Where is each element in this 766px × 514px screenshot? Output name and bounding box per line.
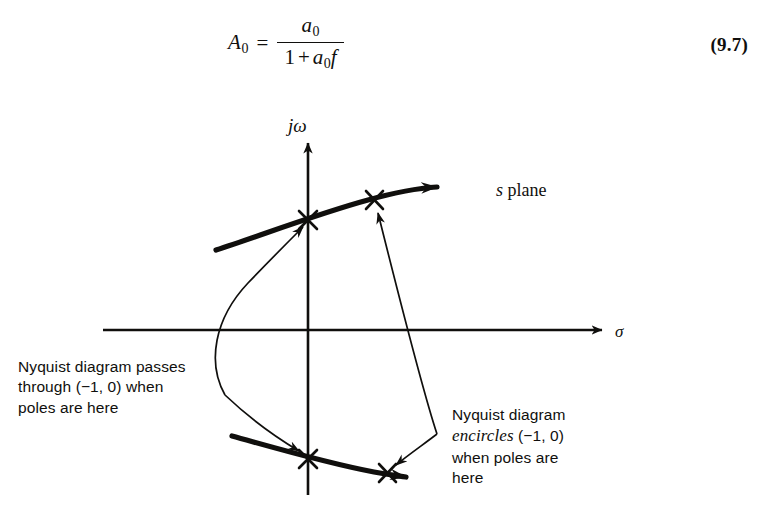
s-plane-diagram: jω σ s plane Nyquist diagram passes thro… xyxy=(0,95,766,514)
denominator-a: a xyxy=(313,45,324,69)
imaginary-axis-label: jω xyxy=(288,115,307,137)
callout-left-line-3: poles are here xyxy=(18,398,186,418)
denominator-f: f xyxy=(331,45,337,69)
equation-fraction: a0 1+a0f xyxy=(277,14,343,72)
s-plane-label: s plane xyxy=(496,180,547,201)
equation-lhs-symbol: A xyxy=(228,30,241,54)
denominator-one: 1 xyxy=(284,45,295,69)
equation-equals-sign: = xyxy=(257,31,269,56)
callout-right-line-3: when poles are xyxy=(452,448,566,468)
numerator-subscript: 0 xyxy=(312,24,320,39)
equation-block: A0 = a0 1+a0f (9.7) xyxy=(0,14,766,76)
numerator-symbol: a xyxy=(301,13,312,37)
equation-lhs-subscript: 0 xyxy=(241,41,249,56)
equation-number: (9.7) xyxy=(711,34,748,56)
callout-right-emphasis: encircles xyxy=(452,426,514,445)
upper-locus-branch xyxy=(216,187,437,250)
right-callout-leaders xyxy=(378,213,437,465)
callout-right-line-1: Nyquist diagram xyxy=(452,405,566,425)
callout-left: Nyquist diagram passes through (−1, 0) w… xyxy=(18,357,186,418)
callout-left-line-2: through (−1, 0) when xyxy=(18,377,186,397)
denominator-plus: + xyxy=(298,45,310,69)
real-axis-label: σ xyxy=(615,322,623,342)
left-callout-leaders xyxy=(215,227,303,451)
equation-denominator: 1+a0f xyxy=(277,43,343,72)
s-plane-diagram-svg xyxy=(0,95,766,514)
equation-expression: A0 = a0 1+a0f xyxy=(228,14,344,72)
lower-locus-branch xyxy=(232,436,406,477)
s-plane-label-text: plane xyxy=(503,180,546,200)
figure-page: A0 = a0 1+a0f (9.7) xyxy=(0,0,766,514)
equation-numerator: a0 xyxy=(291,14,329,42)
denominator-a-subscript: 0 xyxy=(323,56,331,71)
callout-right: Nyquist diagram encircles (−1, 0) when p… xyxy=(452,405,566,489)
callout-right-line-2: encircles (−1, 0) xyxy=(452,425,566,447)
callout-right-line-4: here xyxy=(452,468,566,488)
equation-lhs: A0 xyxy=(228,30,249,57)
pole-markers-group xyxy=(299,191,396,482)
callout-left-line-1: Nyquist diagram passes xyxy=(18,357,186,377)
s-plane-label-symbol: s xyxy=(496,180,503,200)
callout-right-line-2-rest: (−1, 0) xyxy=(514,427,564,444)
